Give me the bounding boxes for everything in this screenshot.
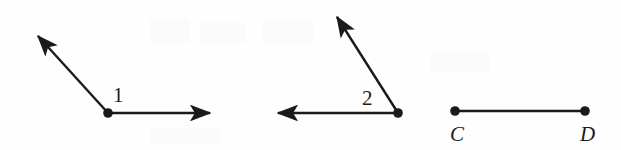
- angle-two-label: 2: [362, 88, 373, 109]
- angle-two-vertex-dot: [393, 108, 403, 118]
- angle-two-figure: [278, 17, 403, 118]
- point-d-dot: [580, 106, 590, 116]
- angle-one-figure: [38, 36, 210, 118]
- angle-one-label: 1: [113, 85, 124, 106]
- point-d-label: D: [580, 124, 595, 145]
- angle-one-vertex-dot: [103, 108, 113, 118]
- point-c-dot: [450, 106, 460, 116]
- point-c-label: C: [450, 124, 464, 145]
- segment-cd-figure: [450, 106, 590, 116]
- geometry-drawing: [0, 0, 621, 150]
- figure-canvas: 1 2 C D: [0, 0, 621, 150]
- angle-one-upper-left-ray: [38, 36, 108, 113]
